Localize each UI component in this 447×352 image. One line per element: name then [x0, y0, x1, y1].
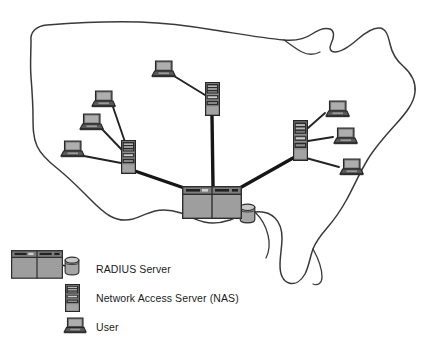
nas-right[interactable] [294, 121, 308, 161]
nas-icon [66, 284, 80, 311]
user-middle-top[interactable] [152, 61, 175, 77]
nas-left[interactable] [122, 141, 136, 174]
legend: RADIUS Server Network Access Server (NAS… [12, 251, 239, 333]
legend-item-nas-label: Network Access Server (NAS) [96, 292, 239, 304]
radius-server-central[interactable] [183, 187, 242, 219]
legend-item-radius[interactable]: RADIUS Server [12, 251, 172, 278]
nas-middle[interactable] [206, 83, 220, 116]
legend-item-user[interactable]: User [64, 318, 119, 333]
link-nas-middle-to-radius [212, 116, 213, 186]
user-right-bottom[interactable] [340, 159, 363, 175]
user-left-top[interactable] [92, 91, 115, 107]
database-cylinder-icon [65, 257, 79, 275]
user-right-top[interactable] [326, 101, 349, 117]
laptop-icon [64, 318, 86, 333]
radius-server-icon [12, 251, 63, 278]
user-right-mid[interactable] [334, 128, 357, 144]
legend-item-radius-label: RADIUS Server [96, 263, 171, 275]
us-map-outline [31, 22, 416, 285]
user-left-bottom[interactable] [61, 141, 84, 157]
user-left-mid[interactable] [80, 114, 103, 130]
network-topology-diagram: RADIUS Server Network Access Server (NAS… [0, 0, 447, 352]
legend-item-user-label: User [96, 321, 119, 333]
legend-item-nas[interactable]: Network Access Server (NAS) [66, 284, 239, 311]
radius-database-central[interactable] [240, 204, 255, 223]
diagram-canvas: RADIUS Server Network Access Server (NAS… [0, 0, 447, 352]
